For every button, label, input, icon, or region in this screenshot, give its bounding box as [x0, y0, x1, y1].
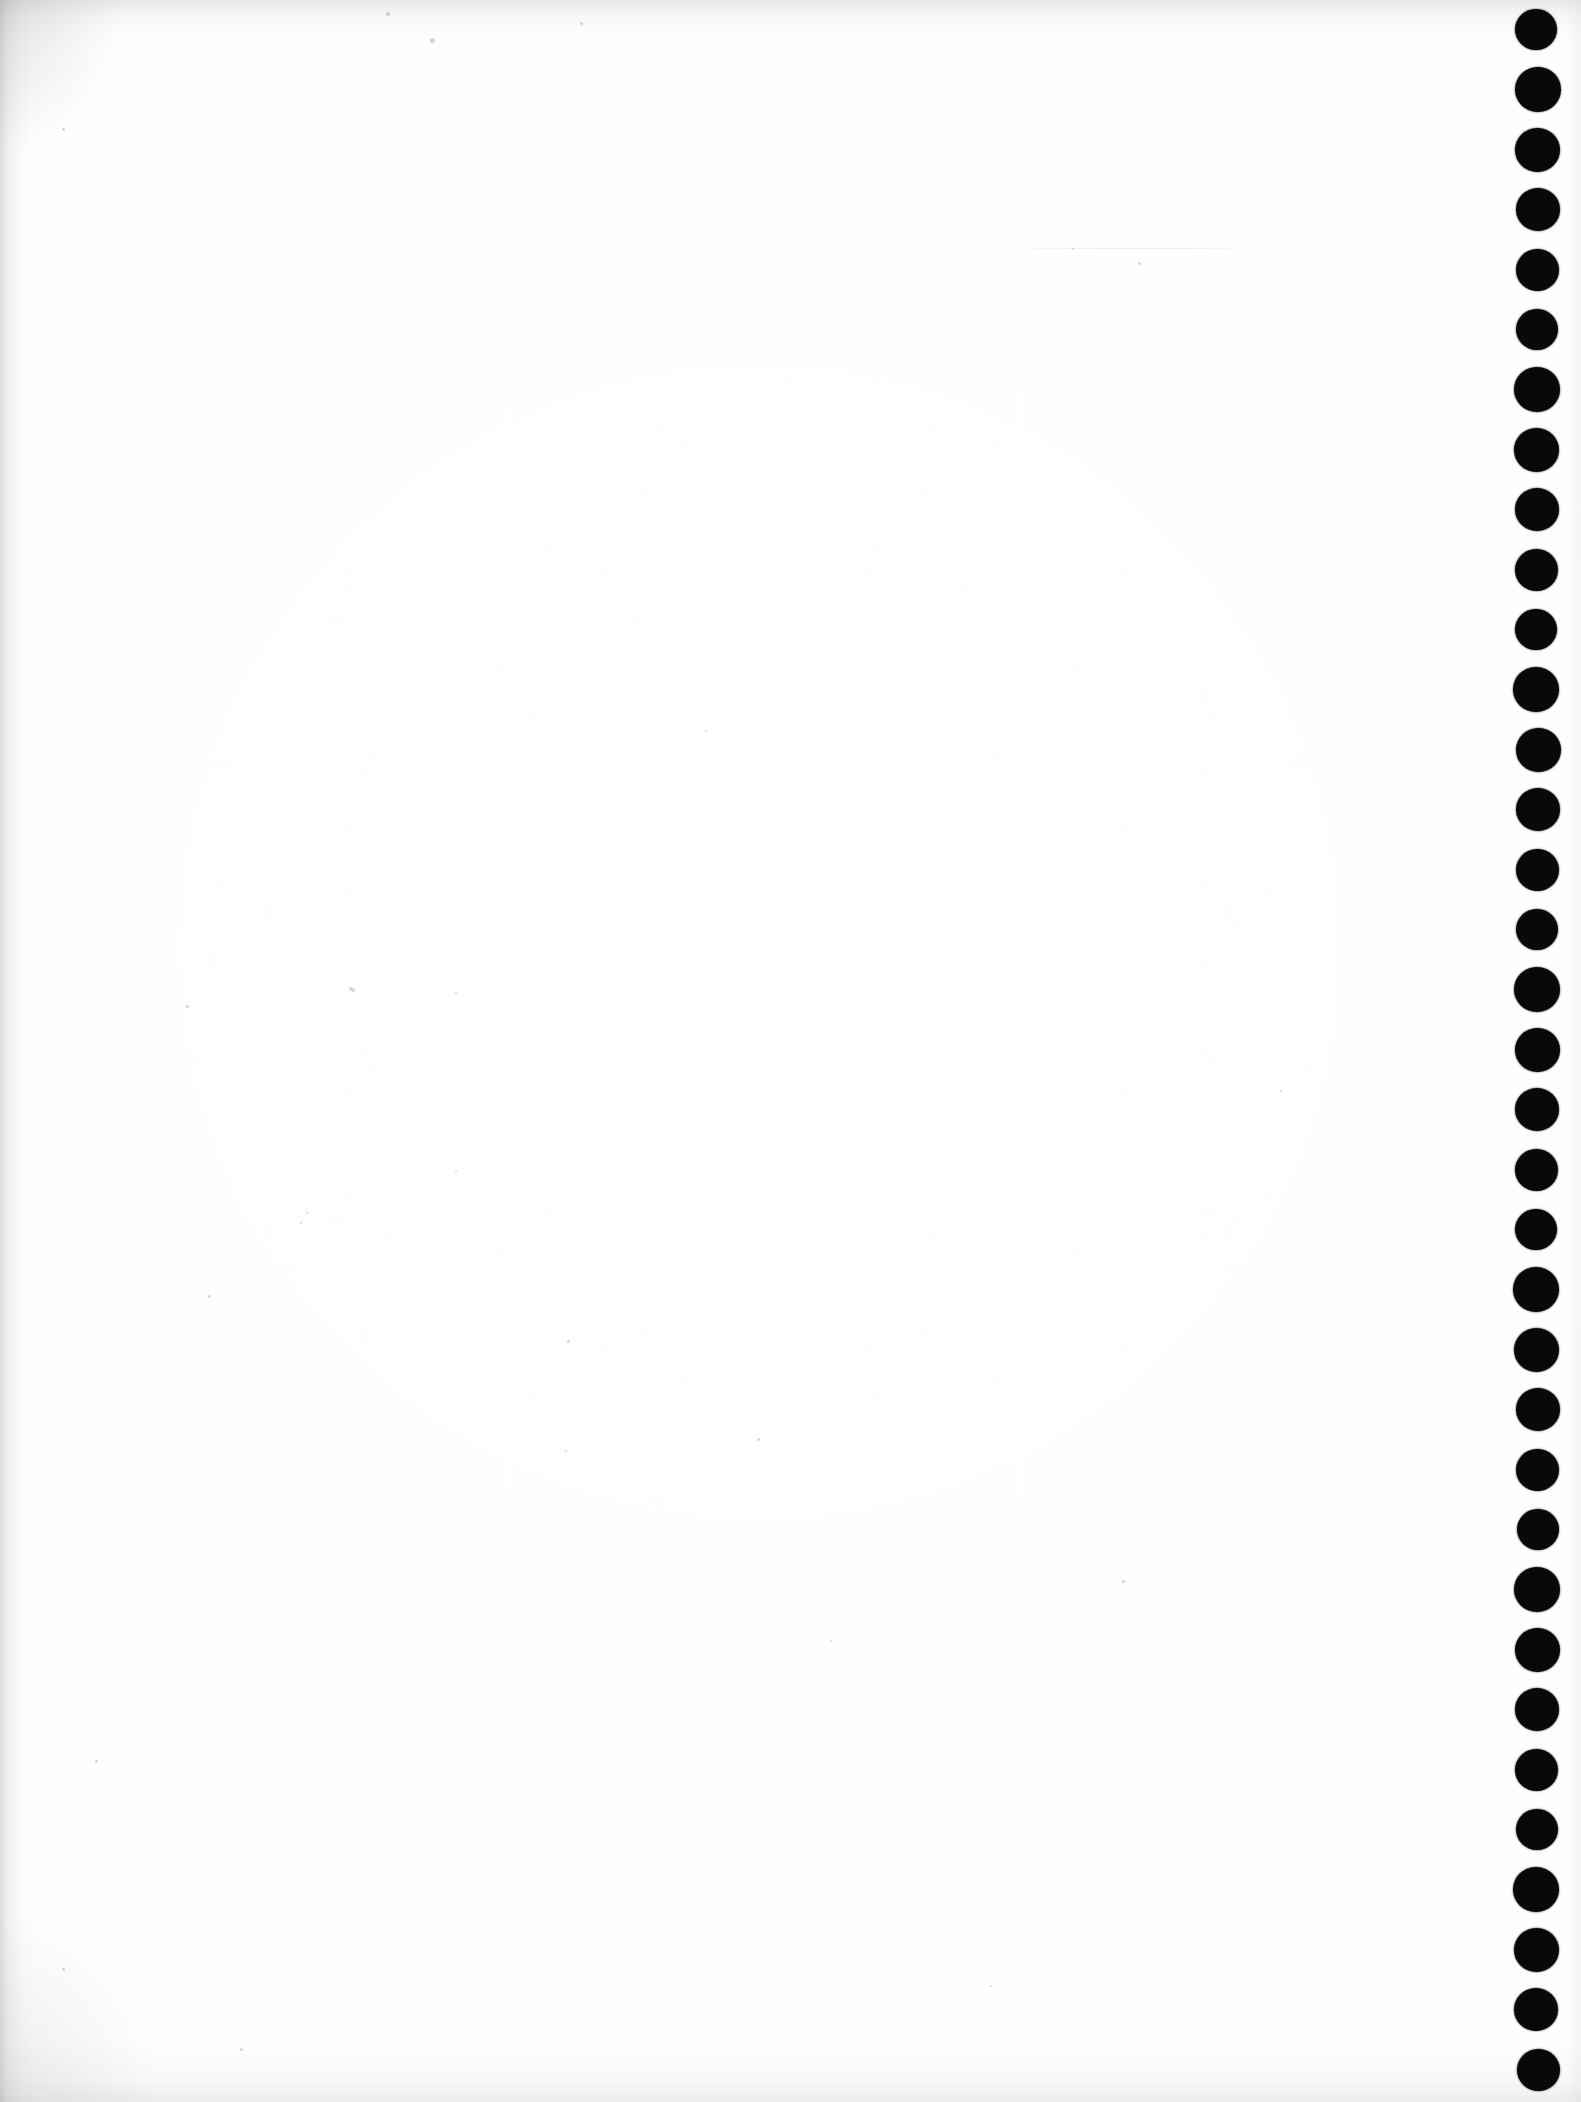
punch-hole-mark: [1514, 1928, 1559, 1972]
punch-hole-mark: [1514, 1988, 1558, 2031]
paper-speck: [705, 730, 707, 732]
punch-hole-mark: [1516, 728, 1561, 772]
punch-hole-mark: [1516, 788, 1560, 831]
paper-speck: [1122, 1580, 1125, 1583]
scan-seam-line: [990, 248, 1260, 249]
paper-speck: [565, 1450, 567, 1452]
punch-hole-mark: [1516, 188, 1560, 231]
paper-speck: [830, 1640, 832, 1642]
punch-hole-mark: [1513, 1267, 1559, 1312]
punch-hole-mark: [1514, 428, 1559, 472]
paper-speck: [1280, 1090, 1282, 1092]
punch-hole-mark: [1516, 309, 1558, 350]
punch-hole-mark: [1513, 1867, 1559, 1912]
punch-hole-mark: [1515, 1028, 1560, 1072]
punch-hole-mark: [1516, 849, 1559, 891]
punch-hole-mark: [1516, 909, 1558, 950]
punch-hole-mark: [1516, 1809, 1558, 1850]
punch-hole-mark: [1514, 1328, 1559, 1372]
punch-hole-mark: [1515, 1749, 1558, 1791]
paper-speck: [95, 1760, 98, 1763]
punch-hole-mark: [1516, 1388, 1560, 1431]
punch-hole-mark: [1516, 249, 1559, 291]
punch-hole-mark: [1515, 128, 1560, 172]
punch-hole-mark: [1513, 667, 1559, 712]
punch-hole-mark: [1515, 609, 1557, 650]
paper-speck: [580, 22, 583, 25]
punch-hole-mark: [1515, 1149, 1558, 1191]
punch-hole-mark: [1514, 1567, 1560, 1612]
punch-hole-mark: [1515, 549, 1558, 591]
punch-hole-mark: [1514, 367, 1560, 412]
punch-hole-mark: [1515, 488, 1559, 531]
paper-speck: [186, 1005, 189, 1008]
punch-hole-mark: [1517, 2049, 1560, 2091]
paper-speck: [208, 1295, 211, 1298]
punch-hole-mark: [1515, 1688, 1559, 1731]
punch-hole-mark: [1517, 1509, 1559, 1550]
paper-speck: [430, 38, 435, 43]
paper-speck: [240, 2048, 243, 2051]
punch-hole-mark: [1516, 1449, 1559, 1491]
paper-speck: [306, 1212, 308, 1214]
scanned-page: [0, 0, 1581, 2102]
punch-hole-mark: [1514, 967, 1560, 1012]
punch-hole-mark: [1515, 1628, 1560, 1672]
paper-speck: [757, 1438, 760, 1441]
paper-speck: [62, 1968, 65, 1971]
punch-hole-mark: [1515, 67, 1561, 112]
paper-grain-texture: [0, 0, 1581, 2102]
paper-speck: [567, 1340, 570, 1343]
paper-speck: [351, 988, 355, 992]
paper-speck: [455, 992, 457, 994]
paper-speck: [455, 1170, 457, 1172]
paper-speck: [300, 1222, 302, 1224]
paper-speck: [386, 12, 390, 16]
punch-hole-mark: [1515, 1088, 1559, 1131]
paper-speck: [1072, 248, 1074, 250]
paper-speck: [1138, 262, 1141, 265]
paper-speck: [990, 1985, 992, 1987]
punch-hole-mark: [1515, 1209, 1557, 1250]
punch-hole-column: [1515, 0, 1559, 2102]
paper-speck: [62, 128, 65, 131]
punch-hole-mark: [1515, 9, 1557, 50]
